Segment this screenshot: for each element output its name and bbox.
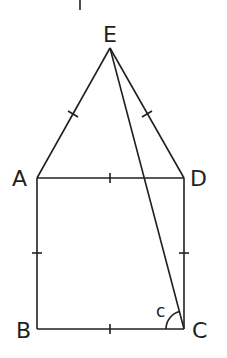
angle-arc-c — [166, 312, 180, 330]
geometry-diagram: E A D B C c — [0, 0, 227, 358]
label-C: C — [192, 318, 207, 343]
label-E: E — [103, 22, 117, 47]
label-B: B — [16, 318, 31, 343]
segment-EA — [37, 48, 110, 178]
tick-EA — [68, 111, 78, 117]
label-D: D — [190, 166, 207, 191]
segment-EC — [110, 48, 184, 329]
angle-label-c: c — [156, 301, 165, 321]
label-A: A — [12, 166, 27, 191]
segment-ED — [110, 48, 184, 178]
